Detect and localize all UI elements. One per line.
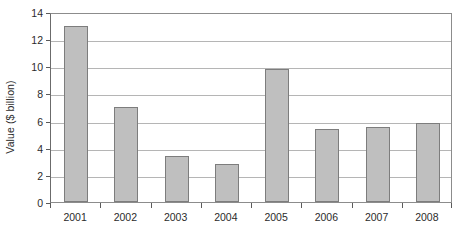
x-axis-tick-mark — [251, 203, 252, 208]
x-axis-tick-mark — [201, 203, 202, 208]
bar-chart: Value ($ billion) 02468101214 2001200220… — [0, 0, 467, 234]
x-axis-tick-label: 2005 — [264, 211, 287, 224]
x-axis-tick-mark — [352, 203, 353, 208]
y-axis-tick-label: 6 — [21, 116, 43, 127]
x-axis-tick-label: 2003 — [164, 211, 187, 224]
y-axis-tick-label: 14 — [21, 8, 43, 19]
y-axis-tick-label: 10 — [21, 62, 43, 73]
bar-2002 — [114, 107, 138, 202]
x-axis-tick-label: 2007 — [365, 211, 388, 224]
bar-2003 — [165, 156, 189, 202]
plot-area — [50, 13, 452, 203]
bar-2006 — [315, 129, 339, 202]
x-axis-tick-mark — [50, 203, 51, 208]
x-axis-tick-label: 2006 — [315, 211, 338, 224]
x-axis-tick-labels: 20012002200320042005200620072008 — [50, 211, 452, 229]
x-axis-tick-mark — [301, 203, 302, 208]
x-axis-tick-mark — [451, 203, 452, 208]
x-axis-tick-marks — [50, 203, 452, 209]
bar-2007 — [366, 127, 390, 202]
x-axis-tick-mark — [151, 203, 152, 208]
x-axis-tick-mark — [100, 203, 101, 208]
bar-2005 — [265, 69, 289, 202]
x-axis-tick-label: 2002 — [114, 211, 137, 224]
y-axis-title: Value ($ billion) — [0, 0, 20, 234]
y-axis-tick-label: 4 — [21, 143, 43, 154]
y-axis-tick-label: 2 — [21, 171, 43, 182]
y-axis-tick-label: 0 — [21, 198, 43, 209]
bar-2004 — [215, 164, 239, 202]
y-axis-tick-label: 12 — [21, 35, 43, 46]
bars-layer — [51, 14, 451, 202]
x-axis-tick-label: 2004 — [214, 211, 237, 224]
bar-2001 — [64, 26, 88, 202]
y-axis-tick-labels: 02468101214 — [21, 0, 43, 234]
x-axis-tick-label: 2008 — [415, 211, 438, 224]
x-axis-tick-label: 2001 — [63, 211, 86, 224]
y-axis-tick-label: 8 — [21, 89, 43, 100]
x-axis-tick-mark — [402, 203, 403, 208]
bar-2008 — [416, 123, 440, 202]
